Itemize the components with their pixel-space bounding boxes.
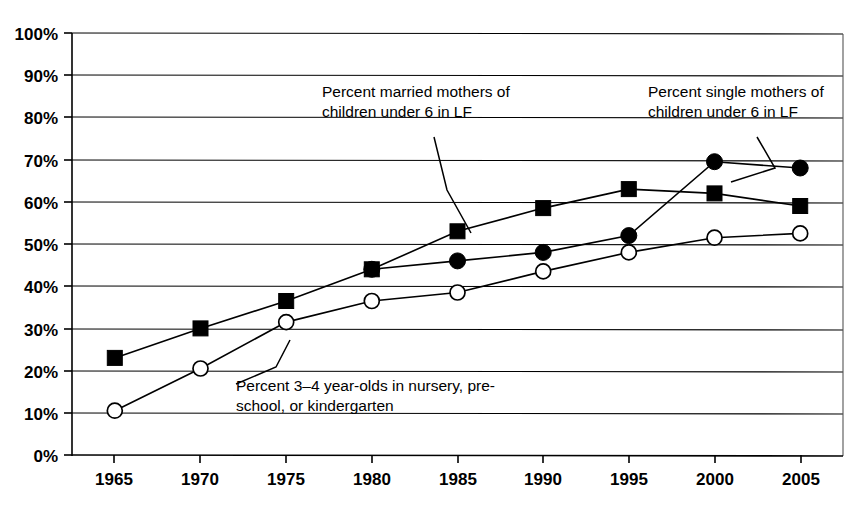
marker-filled-circle	[707, 154, 723, 170]
line-chart: 100% 90% 80% 70% 60% 50% 40% 30% 20% 10%…	[0, 0, 866, 514]
marker-filled-square	[536, 201, 551, 216]
x-tick-label-1995: 1995	[610, 470, 648, 489]
y-tickmarks	[64, 33, 72, 455]
y-tick-label-30: 30%	[24, 321, 58, 340]
x-tick-label-1965: 1965	[95, 470, 133, 489]
marker-filled-circle	[792, 160, 808, 176]
x-axis-labels: 1965 1970 1975 1980 1985 1990 1995 2000 …	[95, 470, 820, 489]
marker-open-circle	[279, 315, 294, 330]
annotation-single-mothers-line2: children under 6 in LF	[648, 103, 798, 120]
x-tick-label-1990: 1990	[524, 470, 562, 489]
y-tick-label-60: 60%	[24, 194, 58, 213]
marker-filled-circle	[621, 228, 637, 244]
annotation-single-mothers-line1: Percent single mothers of	[648, 83, 824, 100]
marker-open-circle	[707, 230, 722, 245]
y-tick-label-10: 10%	[24, 405, 58, 424]
marker-open-circle	[621, 245, 636, 260]
y-tick-label-90: 90%	[24, 67, 58, 86]
gridline-70	[72, 160, 843, 161]
y-tick-label-20: 20%	[24, 363, 58, 382]
marker-filled-square	[793, 199, 808, 214]
y-tick-label-100: 100%	[15, 25, 58, 44]
marker-filled-circle	[535, 244, 551, 260]
gridline-60	[72, 202, 843, 203]
gridline-30	[72, 329, 843, 330]
marker-open-circle	[536, 264, 551, 279]
annotation-leaders	[236, 137, 775, 384]
marker-open-circle	[364, 294, 379, 309]
marker-filled-square	[193, 321, 208, 336]
marker-open-circle	[450, 285, 465, 300]
marker-filled-circle	[364, 261, 380, 277]
gridline-20	[72, 371, 843, 372]
leader-line-married-mothers	[434, 137, 471, 233]
marker-filled-square	[450, 224, 465, 239]
marker-open-circle	[793, 226, 808, 241]
annotation-nursery-line2: school, or kindergarten	[236, 397, 394, 414]
y-tick-label-0: 0%	[33, 447, 58, 466]
y-tick-label-40: 40%	[24, 278, 58, 297]
x-tick-label-1980: 1980	[353, 470, 391, 489]
annotation-married-mothers-line2: children under 6 in LF	[322, 103, 472, 120]
gridline-100	[72, 33, 843, 34]
annotation-married-mothers: Percent married mothers of children unde…	[322, 83, 510, 120]
y-axis-labels: 100% 90% 80% 70% 60% 50% 40% 30% 20% 10%…	[15, 25, 58, 466]
annotation-nursery-line1: Percent 3–4 year-olds in nursery, pre-	[236, 377, 495, 394]
annotation-single-mothers: Percent single mothers of children under…	[648, 83, 824, 120]
chart-container: 100% 90% 80% 70% 60% 50% 40% 30% 20% 10%…	[0, 0, 866, 514]
x-tick-label-2005: 2005	[782, 470, 820, 489]
x-tick-label-1970: 1970	[181, 470, 219, 489]
y-tick-label-70: 70%	[24, 152, 58, 171]
gridline-50	[72, 244, 843, 245]
x-tick-label-2000: 2000	[696, 470, 734, 489]
marker-open-circle	[107, 403, 122, 418]
marker-filled-square	[107, 350, 122, 365]
marker-filled-circle	[450, 253, 466, 269]
annotation-nursery-preschool: Percent 3–4 year-olds in nursery, pre- s…	[236, 377, 495, 414]
series-line	[372, 162, 800, 270]
series-filled-circle	[364, 154, 808, 278]
x-tick-label-1975: 1975	[267, 470, 305, 489]
marker-open-circle	[193, 361, 208, 376]
annotation-married-mothers-line1: Percent married mothers of	[322, 83, 510, 100]
x-tick-label-1985: 1985	[439, 470, 477, 489]
y-tick-label-50: 50%	[24, 236, 58, 255]
gridline-90	[72, 75, 843, 76]
marker-filled-square	[621, 182, 636, 197]
marker-filled-square	[279, 294, 294, 309]
leader-line-single-mothers	[731, 137, 775, 182]
y-tick-label-80: 80%	[24, 109, 58, 128]
series-line	[115, 189, 800, 358]
gridline-10	[72, 413, 843, 414]
marker-filled-square	[707, 186, 722, 201]
